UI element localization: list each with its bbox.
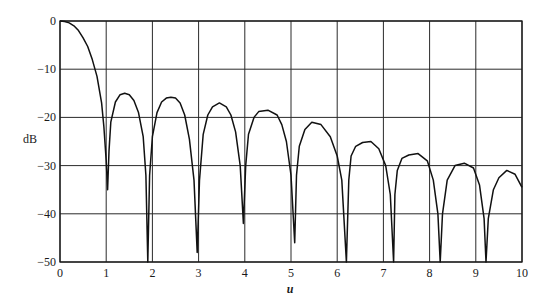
x-tick-label: 9 [473,266,479,280]
y-tick-label: −50 [37,255,56,269]
x-tick-label: 8 [427,266,433,280]
grid-lines [60,21,522,262]
y-axis-label: dB [23,132,37,146]
x-tick-label: 0 [57,266,63,280]
y-tick-label: −20 [37,110,56,124]
x-tick-label: 10 [516,266,528,280]
x-axis-label: u [287,282,294,296]
x-tick-label: 5 [288,266,294,280]
x-tick-label: 1 [103,266,109,280]
y-tick-label: −40 [37,207,56,221]
x-tick-label: 7 [380,266,386,280]
x-tick-label: 6 [334,266,340,280]
y-tick-label: 0 [50,14,56,28]
y-tick-label: −10 [37,62,56,76]
x-tick-label: 3 [196,266,202,280]
x-axis-ticks: 012345678910 [57,266,528,280]
chart: 0−10−20−30−40−50 012345678910 dB u [0,0,546,306]
x-tick-label: 2 [149,266,155,280]
y-tick-label: −30 [37,159,56,173]
y-axis-ticks: 0−10−20−30−40−50 [37,14,56,269]
x-tick-label: 4 [242,266,248,280]
